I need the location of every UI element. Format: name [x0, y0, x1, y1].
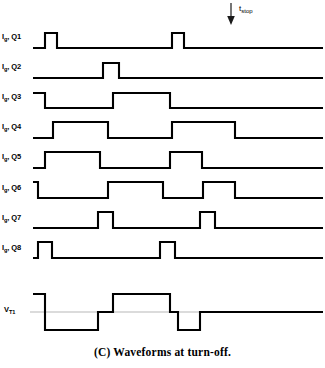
waveform-canvas — [0, 0, 325, 368]
trace-label-q2: Ig, Q2 — [2, 63, 21, 71]
trace-label-q4: Ig, Q4 — [2, 123, 21, 131]
trace-label-q5: Ig, Q5 — [2, 153, 21, 161]
waveform-q6 — [33, 182, 323, 198]
figure-caption: (C) Waveforms at turn-off. — [0, 346, 325, 358]
tstop-label: tstop — [239, 5, 253, 13]
waveform-q3 — [33, 93, 323, 108]
trace-label-q3: Ig, Q3 — [2, 93, 21, 101]
trace-label-q6: Ig, Q6 — [2, 184, 21, 192]
waveform-q2 — [33, 63, 323, 78]
tstop-arrow-icon — [227, 3, 235, 25]
trace-label-q8: Ig, Q8 — [2, 244, 21, 252]
trace-label-vt1: VT1 — [4, 306, 15, 314]
waveform-q5 — [33, 152, 323, 168]
waveform-q7 — [33, 212, 323, 228]
trace-label-q7: Ig, Q7 — [2, 214, 21, 222]
waveform-q4 — [33, 122, 323, 138]
waveform-q8 — [33, 242, 323, 258]
trace-label-q1: Ig, Q1 — [2, 33, 21, 41]
waveform-q1 — [33, 33, 323, 48]
timing-diagram-figure: Ig, Q1 Ig, Q2 Ig, Q3 Ig, Q4 Ig, Q5 Ig, Q… — [0, 0, 325, 368]
